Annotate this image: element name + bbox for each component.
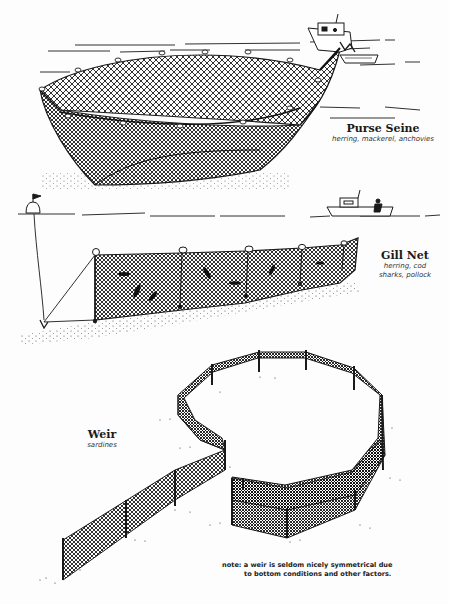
weir-label: Weir sardines bbox=[72, 428, 132, 450]
weir-note-line1: note: a weir is seldom nicely symmetrica… bbox=[222, 561, 442, 570]
purse-seine-species: herring, mackerel, anchovies bbox=[318, 135, 448, 144]
weir-drawing bbox=[39, 350, 400, 584]
weir-title: Weir bbox=[72, 428, 132, 441]
gill-net-species-line2: sharks, pollock bbox=[360, 271, 449, 280]
weir-note-line2: to bottom conditions and other factors. bbox=[222, 570, 442, 579]
weir-species: sardines bbox=[72, 441, 132, 450]
purse-seine-drawing bbox=[39, 14, 420, 190]
marker-buoy-icon bbox=[26, 194, 41, 213]
fishing-nets-diagram: Purse Seine herring, mackerel, anchovies… bbox=[0, 0, 449, 604]
gill-net-label: Gill Net herring, cod sharks, pollock bbox=[360, 249, 449, 280]
illustration bbox=[0, 0, 449, 604]
anchor-icon bbox=[40, 320, 48, 328]
weir-note: note: a weir is seldom nicely symmetrica… bbox=[222, 561, 442, 579]
seiner-boat-icon bbox=[308, 14, 378, 63]
gill-net-title: Gill Net bbox=[360, 249, 449, 262]
purse-seine-title: Purse Seine bbox=[318, 122, 448, 135]
gill-net-species-line1: herring, cod bbox=[360, 262, 449, 271]
fishing-boat-icon bbox=[327, 190, 393, 216]
purse-seine-label: Purse Seine herring, mackerel, anchovies bbox=[318, 122, 448, 144]
